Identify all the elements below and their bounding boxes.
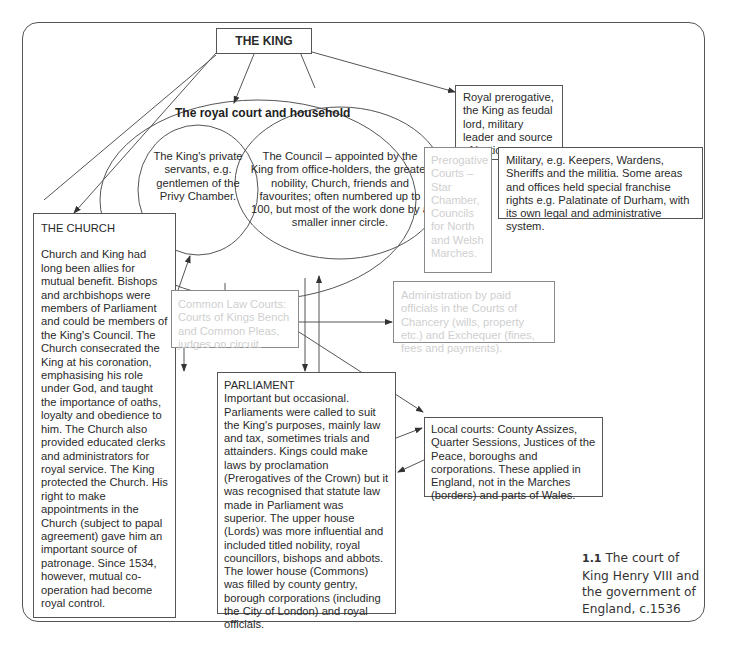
king-label: THE KING: [235, 34, 292, 48]
church-box: THE CHURCH Church and King had long been…: [33, 213, 176, 618]
local-courts-text: Local courts: County Assizes, Quarter Se…: [431, 423, 595, 501]
figure-number: 1.1: [582, 552, 602, 565]
common-law-courts-text: Common Law Courts: Courts of Kings Bench…: [178, 298, 289, 350]
military-box: Military, e.g. Keepers, Wardens, Sheriff…: [498, 147, 703, 219]
church-title: THE CHURCH: [41, 222, 169, 235]
parliament-body: Important but occasional. Parliaments we…: [224, 392, 389, 631]
parliament-box: PARLIAMENT Important but occasional. Par…: [217, 372, 396, 614]
administration-box: Administration by paid officials in the …: [393, 281, 555, 343]
privy-servants-text: The King's private servants, e.g. gentle…: [150, 150, 246, 203]
local-courts-box: Local courts: County Assizes, Quarter Se…: [424, 417, 603, 497]
royal-court-title: The royal court and household: [175, 106, 350, 120]
church-body: Church and King had long been allies for…: [41, 248, 168, 609]
figure-caption: 1.1 The court of King Henry VIII and the…: [582, 550, 700, 617]
king-box: THE KING: [216, 28, 312, 54]
council-text: The Council – appointed by the King from…: [250, 150, 430, 230]
prerogative-courts-text: Prerogative Courts – Star Chamber, Counc…: [431, 154, 488, 259]
prerogative-courts-box: Prerogative Courts – Star Chamber, Counc…: [424, 147, 492, 273]
parliament-title: PARLIAMENT: [224, 379, 389, 392]
common-law-courts-box: Common Law Courts: Courts of Kings Bench…: [171, 290, 299, 348]
